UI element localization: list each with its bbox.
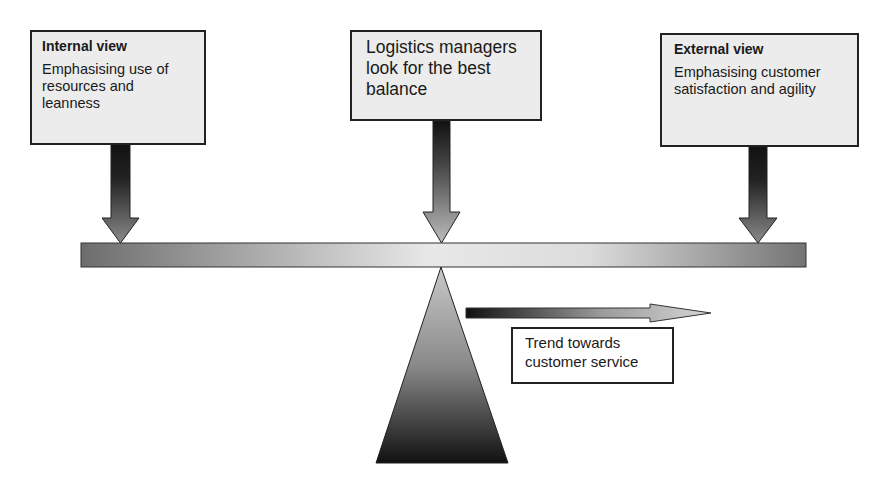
- down-arrow-icon-internal: [102, 144, 139, 243]
- fulcrum-triangle: [376, 267, 508, 463]
- internal-view-body: Emphasising use of resources and leannes…: [42, 61, 194, 112]
- down-arrow-icon-external: [739, 146, 777, 243]
- balance-beam: [81, 243, 806, 267]
- trend-label: Trend towards customer service: [525, 334, 638, 370]
- balance-box: Logistics managers look for the best bal…: [350, 30, 542, 121]
- balance-body: Logistics managers look for the best bal…: [366, 37, 526, 100]
- internal-view-box: Internal view Emphasising use of resourc…: [30, 30, 206, 145]
- trend-label-box: Trend towards customer service: [511, 327, 674, 384]
- external-view-box: External view Emphasising customer satis…: [660, 33, 859, 147]
- down-arrow-icon-middle: [423, 121, 460, 243]
- internal-view-title: Internal view: [42, 38, 194, 55]
- external-view-title: External view: [674, 41, 845, 58]
- right-arrow-icon-trend: [466, 304, 711, 322]
- external-view-body: Emphasising customer satisfaction and ag…: [674, 64, 845, 98]
